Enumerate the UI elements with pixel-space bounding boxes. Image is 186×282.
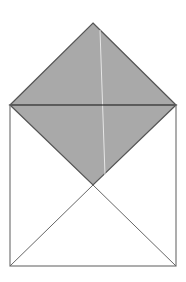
envelope-svg [0, 0, 186, 282]
envelope-diagonal-right [93, 185, 176, 266]
envelope-flap-open [10, 23, 176, 105]
envelope-flap-inner [10, 105, 176, 185]
envelope-diagonal-left [10, 185, 93, 266]
envelope-diagram [0, 0, 186, 282]
